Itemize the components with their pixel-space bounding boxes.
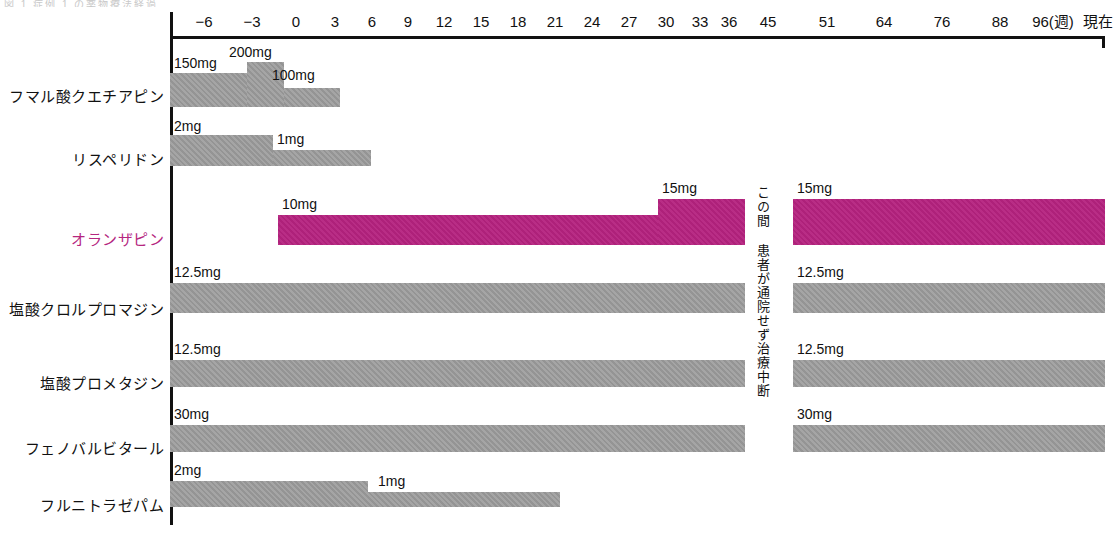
bar-segment-r0-s0 xyxy=(170,73,247,107)
axis-tick-12: 30 xyxy=(658,12,675,32)
dose-label-r0-s0: 150mg xyxy=(174,55,217,71)
axis-tick-6: 12 xyxy=(436,12,453,32)
axis-tick-21: 現在 xyxy=(1083,12,1113,32)
axis-tick-16: 51 xyxy=(819,12,836,32)
cropped-header-fragment: 図 1 症例 1 の薬物療法経過 xyxy=(4,0,158,7)
axis-tick-3: 3 xyxy=(331,12,339,32)
dose-label-r3-s1: 12.5mg xyxy=(797,264,844,280)
dose-label-r4-s0: 12.5mg xyxy=(174,341,221,357)
bar-segment-r4-s0 xyxy=(170,360,745,387)
treatment-interruption-note: この間 患者が通院せず治療中断 xyxy=(748,186,770,516)
axis-tick-7: 15 xyxy=(473,12,490,32)
bar-segment-r5-s1 xyxy=(793,425,1105,452)
axis-horizontal-line xyxy=(170,36,1105,39)
bar-segment-r1-s1 xyxy=(273,150,371,166)
dose-label-r1-s0: 2mg xyxy=(174,118,201,134)
dose-label-r3-s0: 12.5mg xyxy=(174,264,221,280)
axis-tick-15: 45 xyxy=(760,12,777,32)
axis-tick-2: 0 xyxy=(292,12,300,32)
row-label-0: フマル酸クエチアピン xyxy=(0,85,164,106)
axis-tick-20: 96(週) xyxy=(1032,12,1074,32)
dose-label-r4-s1: 12.5mg xyxy=(797,341,844,357)
axis-tick-19: 88 xyxy=(992,12,1009,32)
axis-end-tick xyxy=(1102,36,1105,48)
bar-segment-r4-s1 xyxy=(793,360,1105,387)
dose-label-r5-s0: 30mg xyxy=(174,406,209,422)
axis-tick-14: 36 xyxy=(721,12,738,32)
axis-tick-10: 24 xyxy=(584,12,601,32)
dose-label-r6-s1: 1mg xyxy=(378,473,405,489)
bar-segment-r5-s0 xyxy=(170,425,745,452)
row-label-3: 塩酸クロルプロマジン xyxy=(0,298,164,319)
axis-tick-5: 9 xyxy=(404,12,412,32)
bar-segment-r1-s0 xyxy=(170,135,273,166)
axis-tick-18: 76 xyxy=(934,12,951,32)
bar-segment-r2-s2 xyxy=(793,199,1105,245)
dose-label-r1-s1: 1mg xyxy=(277,131,304,147)
axis-tick-0: −6 xyxy=(195,12,212,32)
row-label-6: フルニトラゼパム xyxy=(0,494,164,515)
bar-segment-r6-s0 xyxy=(170,481,368,507)
medication-timeline-chart: 図 1 症例 1 の薬物療法経過 −6−30369121518212427303… xyxy=(0,0,1120,535)
axis-tick-9: 21 xyxy=(547,12,564,32)
dose-label-r2-s2: 15mg xyxy=(797,180,832,196)
dose-label-r0-s2: 100mg xyxy=(272,67,315,83)
axis-tick-13: 33 xyxy=(692,12,709,32)
row-label-1: リスペリドン xyxy=(0,148,164,169)
dose-label-r0-s1: 200mg xyxy=(229,44,272,60)
bar-segment-r2-s1 xyxy=(658,199,745,245)
dose-label-r6-s0: 2mg xyxy=(174,462,201,478)
dose-label-r2-s0: 10mg xyxy=(282,196,317,212)
axis-tick-4: 6 xyxy=(368,12,376,32)
bar-segment-r3-s1 xyxy=(793,283,1105,313)
bar-segment-r3-s0 xyxy=(170,283,745,313)
row-label-4: 塩酸プロメタジン xyxy=(0,372,164,393)
row-label-5: フェノバルビタール xyxy=(0,437,164,458)
bar-segment-r6-s1 xyxy=(368,492,560,507)
bar-segment-r0-s2 xyxy=(284,88,340,107)
dose-label-r2-s1: 15mg xyxy=(662,180,697,196)
axis-tick-1: −3 xyxy=(243,12,260,32)
axis-tick-11: 27 xyxy=(621,12,638,32)
row-label-2: オランザピン xyxy=(0,228,164,249)
bar-segment-r2-s0 xyxy=(278,215,658,245)
axis-tick-17: 64 xyxy=(876,12,893,32)
axis-tick-8: 18 xyxy=(510,12,527,32)
dose-label-r5-s1: 30mg xyxy=(797,406,832,422)
